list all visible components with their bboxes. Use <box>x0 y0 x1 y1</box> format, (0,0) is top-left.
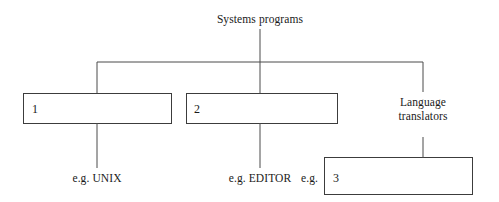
branch-1-box-label: 1 <box>32 103 38 115</box>
root-label: Systems programs <box>194 13 326 26</box>
systems-programs-diagram: Systems programs 1 2 Language translator… <box>0 0 499 202</box>
branch-2-example-label: e.g. EDITOR <box>212 172 308 185</box>
branch-3-label-line-2: translators <box>381 110 465 123</box>
branch-1-example-label: e.g. UNIX <box>52 172 142 185</box>
branch-2-box-label: 2 <box>194 103 200 115</box>
branch-3-box-label: 3 <box>333 172 339 184</box>
branch-2-box <box>187 94 338 124</box>
branch-3-example-prefix: e.g. <box>301 172 318 185</box>
branch-1-box <box>24 94 172 124</box>
branch-3-label-line-1: Language <box>381 96 465 109</box>
branch-3-box <box>325 158 473 195</box>
